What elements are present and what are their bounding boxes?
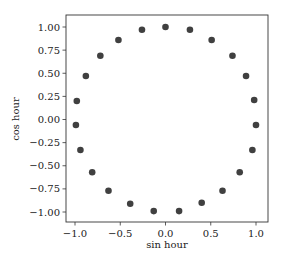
data-point bbox=[97, 52, 104, 59]
data-point bbox=[219, 187, 226, 194]
data-point bbox=[208, 37, 215, 44]
data-point bbox=[74, 98, 81, 105]
x-tick-label: 0.0 bbox=[158, 228, 174, 239]
x-tick-label: −0.5 bbox=[108, 228, 132, 239]
data-point bbox=[150, 208, 157, 215]
data-point bbox=[251, 97, 258, 104]
y-tick-label: −0.25 bbox=[29, 137, 60, 148]
x-tick-label: 0.5 bbox=[203, 228, 219, 239]
y-tick-label: −0.50 bbox=[29, 160, 60, 171]
x-axis-label: sin hour bbox=[146, 239, 188, 250]
data-point bbox=[139, 26, 146, 33]
data-point bbox=[187, 26, 194, 33]
data-point bbox=[198, 199, 205, 206]
y-tick-label: 1.00 bbox=[38, 22, 60, 33]
data-point bbox=[253, 122, 260, 129]
data-points bbox=[73, 24, 260, 215]
x-tick-label: −1.0 bbox=[63, 228, 87, 239]
data-point bbox=[162, 24, 169, 31]
y-tick-label: 0.50 bbox=[38, 68, 60, 79]
y-tick-label: 0.25 bbox=[38, 91, 60, 102]
data-point bbox=[105, 187, 112, 194]
data-point bbox=[176, 208, 183, 215]
data-point bbox=[243, 73, 250, 80]
data-point bbox=[73, 122, 80, 129]
y-tick-label: 0.00 bbox=[38, 114, 60, 125]
x-axis-ticks: −1.0−0.50.00.51.0 bbox=[63, 222, 264, 239]
x-tick-label: 1.0 bbox=[248, 228, 264, 239]
data-point bbox=[236, 169, 243, 176]
data-point bbox=[77, 147, 84, 154]
data-point bbox=[249, 147, 256, 154]
y-axis-ticks: 1.000.750.500.250.00−0.25−0.50−0.75−1.00 bbox=[29, 22, 66, 218]
data-point bbox=[229, 52, 236, 59]
scatter-chart: −1.0−0.50.00.51.0 1.000.750.500.250.00−0… bbox=[0, 0, 283, 263]
y-axis-label: cos hour bbox=[10, 97, 21, 141]
y-tick-label: 0.75 bbox=[38, 45, 60, 56]
data-point bbox=[115, 37, 122, 44]
plot-frame bbox=[66, 15, 268, 222]
data-point bbox=[127, 200, 134, 207]
y-tick-label: −1.00 bbox=[29, 207, 60, 218]
y-tick-label: −0.75 bbox=[29, 183, 60, 194]
data-point bbox=[83, 73, 90, 80]
data-point bbox=[89, 169, 96, 176]
